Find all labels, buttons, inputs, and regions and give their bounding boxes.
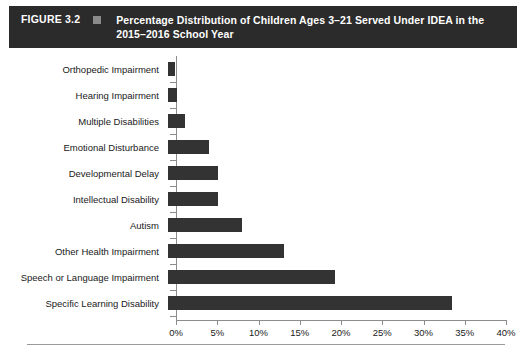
bar: [168, 88, 177, 102]
bar-row: Multiple Disabilities: [0, 108, 527, 134]
category-label: Other Health Impairment: [0, 246, 168, 257]
x-axis-tick: [424, 320, 425, 325]
x-axis-tick-label: 15%: [290, 327, 309, 338]
y-axis-tick: [170, 290, 176, 291]
category-label: Autism: [0, 220, 168, 231]
x-axis-tick: [176, 320, 177, 325]
bar: [168, 62, 175, 76]
bar-row: Intellectual Disability: [0, 186, 527, 212]
plot-area: Orthopedic ImpairmentHearing ImpairmentM…: [0, 52, 527, 337]
x-axis-tick-label: 30%: [414, 327, 433, 338]
square-marker-icon: [93, 16, 101, 24]
bar-rows: Orthopedic ImpairmentHearing ImpairmentM…: [0, 56, 527, 316]
figure-header-banner: FIGURE 3.2 Percentage Distribution of Ch…: [9, 6, 517, 48]
figure-title: Percentage Distribution of Children Ages…: [116, 13, 507, 41]
bar-chart: Orthopedic ImpairmentHearing ImpairmentM…: [0, 52, 527, 337]
bar-track: [168, 108, 527, 134]
bar: [168, 140, 209, 154]
bar-track: [168, 264, 527, 290]
category-label: Speech or Language Impairment: [0, 272, 168, 283]
y-axis-tick: [170, 316, 176, 317]
x-axis-tick-label: 10%: [249, 327, 268, 338]
bar-row: Emotional Disturbance: [0, 134, 527, 160]
x-axis-tick-label: 20%: [331, 327, 350, 338]
x-axis-tick-label: 5%: [210, 327, 224, 338]
bar-track: [168, 160, 527, 186]
bar: [168, 270, 335, 284]
bar-track: [168, 290, 527, 316]
bar-row: Orthopedic Impairment: [0, 56, 527, 82]
bar-track: [168, 212, 527, 238]
y-axis-tick: [170, 82, 176, 83]
y-axis-tick: [170, 134, 176, 135]
x-axis-tick: [506, 320, 507, 325]
x-axis-ticks: 0%5%10%15%20%25%30%35%40%: [0, 320, 527, 342]
bar-track: [168, 134, 527, 160]
bar-row: Speech or Language Impairment: [0, 264, 527, 290]
bar: [168, 114, 185, 128]
x-axis-tick: [259, 320, 260, 325]
bar-row: Autism: [0, 212, 527, 238]
category-label: Emotional Disturbance: [0, 142, 168, 153]
category-label: Developmental Delay: [0, 168, 168, 179]
bar: [168, 218, 242, 232]
y-axis-tick: [170, 212, 176, 213]
y-axis-tick: [170, 238, 176, 239]
footer-rule: [27, 344, 505, 345]
x-axis-tick-label: 25%: [373, 327, 392, 338]
bar: [168, 166, 218, 180]
x-axis-tick: [300, 320, 301, 325]
bar: [168, 192, 218, 206]
bar-track: [168, 238, 527, 264]
x-axis-tick: [217, 320, 218, 325]
x-axis-tick-label: 40%: [496, 327, 515, 338]
bar-track: [168, 82, 527, 108]
bar-row: Developmental Delay: [0, 160, 527, 186]
y-axis-tick: [170, 186, 176, 187]
category-label: Specific Learning Disability: [0, 298, 168, 309]
x-axis-tick: [341, 320, 342, 325]
category-label: Orthopedic Impairment: [0, 64, 168, 75]
bar-row: Other Health Impairment: [0, 238, 527, 264]
x-axis-tick: [465, 320, 466, 325]
figure-number-label: FIGURE 3.2: [21, 13, 80, 26]
x-axis-tick-label: 0%: [169, 327, 183, 338]
bar: [168, 296, 452, 310]
y-axis-tick: [170, 264, 176, 265]
category-label: Hearing Impairment: [0, 90, 168, 101]
category-label: Intellectual Disability: [0, 194, 168, 205]
bar-track: [168, 186, 527, 212]
x-axis-tick-label: 35%: [455, 327, 474, 338]
y-axis-tick: [170, 108, 176, 109]
x-axis-tick: [382, 320, 383, 325]
bar-track: [168, 56, 527, 82]
bar-row: Hearing Impairment: [0, 82, 527, 108]
bar-row: Specific Learning Disability: [0, 290, 527, 316]
y-axis-tick: [170, 160, 176, 161]
category-label: Multiple Disabilities: [0, 116, 168, 127]
bar: [168, 244, 284, 258]
